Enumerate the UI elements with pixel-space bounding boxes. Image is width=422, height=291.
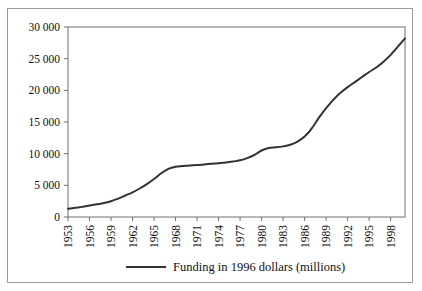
x-tick-label: 1959 xyxy=(105,225,117,248)
x-tick-label: 1971 xyxy=(191,225,203,248)
x-tick-label: 1986 xyxy=(299,225,311,248)
y-tick-label: 30 000 xyxy=(28,21,60,33)
y-tick-label: 25 000 xyxy=(28,53,60,65)
plot-area-frame xyxy=(68,27,405,217)
plot-area-border xyxy=(68,27,405,217)
chart-legend: Funding in 1996 dollars (millions) xyxy=(126,260,345,274)
y-tick-label: 20 000 xyxy=(28,84,60,96)
funding-line-chart: 05 00010 00015 00020 00025 00030 000 195… xyxy=(8,9,412,282)
x-tick-label: 1992 xyxy=(342,225,354,248)
x-tick-label: 1977 xyxy=(234,225,246,248)
x-axis: 1953195619591962196519681971197419771980… xyxy=(62,217,397,248)
x-tick-label: 1956 xyxy=(84,225,96,248)
x-tick-label: 1968 xyxy=(170,225,182,248)
x-tick-label: 1983 xyxy=(277,225,289,248)
y-tick-label: 10 000 xyxy=(28,148,60,160)
x-tick-label: 1974 xyxy=(213,225,225,248)
y-tick-label: 15 000 xyxy=(28,116,60,128)
y-axis: 05 00010 00015 00020 00025 00030 000 xyxy=(28,21,68,223)
x-tick-label: 1965 xyxy=(148,225,160,248)
x-tick-label: 1989 xyxy=(320,225,332,248)
x-tick-label: 1995 xyxy=(363,225,375,248)
y-tick-label: 5 000 xyxy=(34,179,60,191)
x-tick-label: 1998 xyxy=(385,225,397,248)
x-tick-label: 1980 xyxy=(256,225,268,248)
y-tick-label: 0 xyxy=(54,211,60,223)
chart-figure: 05 00010 00015 00020 00025 00030 000 195… xyxy=(7,8,413,283)
x-tick-label: 1962 xyxy=(127,225,139,248)
legend-label-funding: Funding in 1996 dollars (millions) xyxy=(173,260,345,274)
x-tick-label: 1953 xyxy=(62,225,74,248)
